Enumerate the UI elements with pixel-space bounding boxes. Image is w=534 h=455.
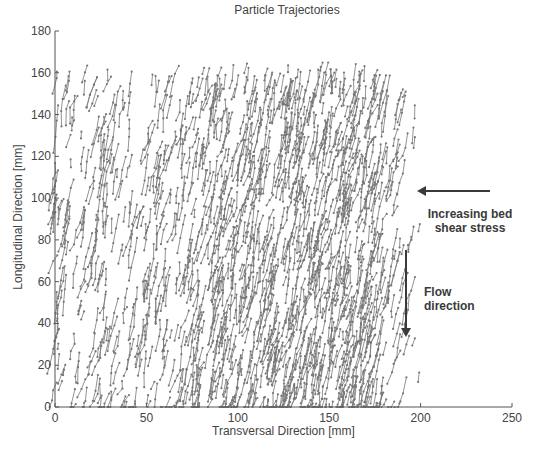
shear-annotation-line1: Increasing bed (420, 207, 520, 221)
chart-title: Particle Trajectories (0, 3, 534, 17)
shear-stress-annotation: Increasing bed shear stress (420, 207, 520, 235)
x-tick-label: 250 (502, 411, 522, 425)
x-tick-label: 0 (52, 411, 59, 425)
y-tick-label: 120 (31, 149, 51, 163)
flow-direction-annotation: Flow direction (424, 285, 475, 313)
y-tick-label: 80 (38, 233, 52, 247)
y-axis-label: Longitudinal Direction [mm] (11, 137, 25, 297)
x-tick-label: 100 (228, 411, 248, 425)
y-tick-label: 160 (31, 66, 51, 80)
y-tick-label: 140 (31, 108, 51, 122)
flow-annotation-line2: direction (424, 299, 475, 313)
flow-annotation-line1: Flow (424, 285, 475, 299)
y-tick-label: 40 (38, 316, 52, 330)
trajectory-layer (46, 61, 421, 408)
x-tick-label: 50 (140, 411, 154, 425)
shear-annotation-line2: shear stress (420, 221, 520, 235)
y-tick-label: 0 (44, 400, 51, 414)
y-tick-label: 180 (31, 24, 51, 38)
x-tick-label: 200 (411, 411, 431, 425)
y-tick-label: 60 (38, 275, 52, 289)
x-axis-label: Transversal Direction [mm] (55, 424, 512, 438)
shear-arrowhead-icon (417, 186, 426, 196)
x-tick-label: 150 (319, 411, 339, 425)
y-tick-label: 20 (38, 358, 52, 372)
y-tick-label: 100 (31, 191, 51, 205)
